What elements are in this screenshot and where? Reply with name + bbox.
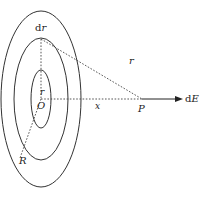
arrowhead-icon (175, 96, 183, 102)
label-de: dE (185, 94, 199, 104)
diagram-canvas (0, 0, 206, 198)
label-dr: dr (35, 23, 46, 33)
label-r-distance: r (129, 56, 134, 66)
label-r-inner: r (40, 88, 44, 97)
label-x: x (95, 102, 100, 111)
label-radius-r: R (19, 156, 27, 166)
label-origin: O (37, 101, 45, 111)
label-point-p: P (138, 104, 145, 114)
